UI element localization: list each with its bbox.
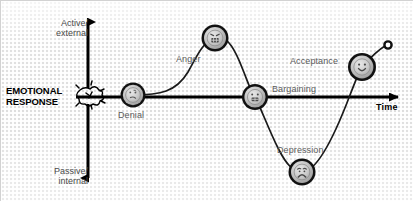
y-axis-title: EMOTIONAL RESPONSE — [6, 86, 62, 107]
node-label-bargaining: Bargaining — [272, 84, 316, 94]
node-depression[interactable] — [289, 159, 316, 186]
node-acceptance[interactable] — [348, 53, 376, 81]
y-axis-top-label-line1: Active/ — [61, 18, 88, 28]
y-axis-top-label-line2: external — [56, 28, 88, 38]
y-axis-bottom-label-line1: Passive/ — [54, 166, 88, 176]
node-label-depression: Depression — [277, 145, 324, 155]
node-denial[interactable] — [121, 83, 146, 108]
y-axis-bottom-label: Passive/ internal — [26, 166, 88, 186]
node-label-acceptance: Acceptance — [290, 56, 338, 66]
emotional-response-chart: Active/ external Passive/ internal EMOTI… — [0, 0, 413, 201]
y-axis-title-line2: RESPONSE — [6, 96, 58, 107]
node-label-denial: Denial — [118, 110, 144, 120]
node-label-anger: Anger — [176, 54, 201, 64]
x-axis-label: Time — [376, 102, 398, 112]
node-anger[interactable] — [202, 25, 229, 52]
node-bargaining[interactable] — [242, 84, 268, 110]
y-axis-bottom-label-line2: internal — [58, 176, 88, 186]
y-axis-title-line1: EMOTIONAL — [6, 85, 62, 96]
endpoint-dot — [384, 41, 391, 48]
y-axis-top-label: Active/ external — [26, 18, 88, 38]
scribble-burst-icon — [76, 81, 105, 109]
